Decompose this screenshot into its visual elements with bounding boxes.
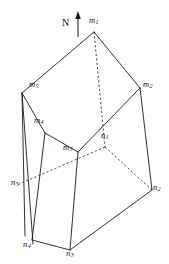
edge-m4-m5 — [22, 93, 45, 133]
north-label: N — [62, 18, 69, 28]
vertex-label-n5: n5 — [11, 178, 19, 187]
vertex-label-n4: n4 — [23, 240, 31, 249]
edge-m1-m2 — [94, 32, 140, 88]
edge-m2-n2 — [140, 88, 152, 190]
vertex-label-m1: m1 — [89, 16, 99, 25]
hidden-edges-group — [17, 32, 152, 190]
edge-n1-n2-hidden — [105, 147, 152, 190]
solid-edges-group — [22, 32, 152, 250]
north-arrow-head — [75, 11, 81, 19]
polyhedron-figure: N m1 m2 m3 m4 m5 n1 n2 n3 n4 n5 — [0, 0, 169, 264]
edge-m3-m4 — [45, 133, 78, 152]
edge-m3-n3 — [70, 152, 78, 250]
north-arrow-icon — [75, 11, 81, 37]
edge-n4-n3 — [32, 240, 70, 250]
vertex-label-m4: m4 — [34, 116, 44, 125]
vertex-label-m3: m3 — [63, 143, 73, 152]
edge-n3-n2 — [70, 190, 152, 250]
vertex-label-n3: n3 — [66, 249, 74, 258]
edge-n1-n5-hidden — [17, 147, 105, 185]
edge-m2-m3 — [78, 88, 140, 152]
vertex-label-n1: n1 — [101, 131, 109, 140]
polyhedron-drawing-canvas — [0, 0, 169, 264]
edge-m4-n4 — [32, 133, 45, 240]
vertex-label-n2: n2 — [153, 183, 161, 192]
vertex-label-m5: m5 — [29, 80, 39, 89]
vertex-label-m2: m2 — [143, 80, 153, 89]
